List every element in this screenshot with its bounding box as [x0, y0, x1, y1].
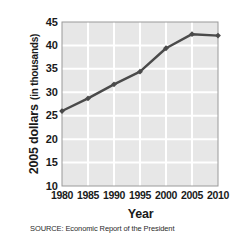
x-axis-tick-label: 2010: [201, 190, 235, 201]
line-chart-figure: 2005 dollars (in thousands) 101520253035…: [0, 0, 241, 238]
source-note: SOURCE: Economic Report of the President: [30, 224, 174, 233]
x-axis-title: Year: [62, 207, 219, 221]
x-axis-tick-labels: 1980198519901995200020052010: [0, 190, 241, 204]
